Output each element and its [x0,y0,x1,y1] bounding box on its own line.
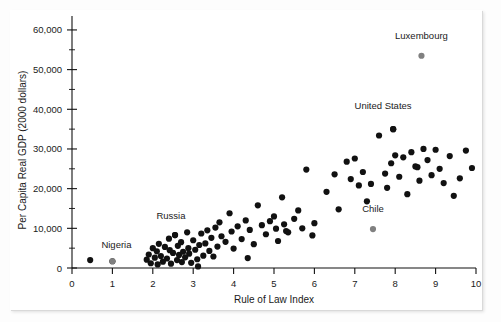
data-point [437,166,443,172]
data-point [457,175,463,181]
data-point [164,255,170,261]
data-point [243,217,249,223]
data-point [228,228,234,234]
data-point [154,248,160,254]
data-point [202,240,208,246]
y-tick-label: 20,000 [33,183,62,194]
annotated-data-point [390,126,396,132]
annotated-data-point [418,53,424,59]
y-axis-title: Per Capita Real GDP (2000 dollars) [17,71,28,230]
annotated-data-point [370,226,376,232]
data-point [204,227,210,233]
point-label-luxembourg: Luxembourg [395,30,448,41]
x-tick-label: 0 [69,278,74,289]
data-point [168,261,174,267]
data-point [158,253,164,259]
data-point [166,236,172,242]
data-point [348,176,354,182]
y-tick-label: 0 [57,263,62,274]
data-point [416,178,422,184]
data-point [344,159,350,165]
data-point [295,207,301,213]
point-label-chile: Chile [362,203,384,214]
data-point [323,189,329,195]
data-point [190,237,196,243]
data-point [420,146,426,152]
x-tick-label: 1 [110,278,115,289]
point-label-nigeria: Nigeria [101,239,132,250]
data-point [178,239,184,245]
data-point [146,251,152,257]
data-point [152,255,158,261]
data-point [388,160,394,166]
data-point [194,256,200,262]
data-point [271,213,277,219]
scatter-plot: 012345678910010,00020,00030,00040,00050,… [0,0,501,322]
data-point [170,250,176,256]
x-tick-label: 5 [271,278,276,289]
data-point [311,220,317,226]
data-point [356,182,362,188]
data-point [196,242,202,248]
data-point [155,261,161,267]
y-tick-label: 30,000 [33,143,62,154]
data-point [200,253,206,259]
data-point [212,224,218,230]
data-point [185,245,191,251]
data-point [360,169,366,175]
data-point [291,216,297,222]
data-point [469,165,475,171]
data-point [433,147,439,153]
data-point [156,241,162,247]
data-point [400,154,406,160]
data-point [267,218,273,224]
data-point [247,227,253,233]
data-point [245,255,251,261]
y-tick-label: 50,000 [33,64,62,75]
data-point [392,152,398,158]
x-tick-label: 7 [352,278,357,289]
annotated-data-point [172,232,178,238]
x-tick-label: 2 [150,278,155,289]
data-point [303,167,309,173]
data-point [281,221,287,227]
data-point [336,206,342,212]
data-point [463,147,469,153]
data-point [424,157,430,163]
annotated-data-point [109,258,115,264]
data-point [332,171,338,177]
data-point [222,239,228,245]
data-point [218,233,224,239]
point-label-russia: Russia [156,210,186,221]
data-point [408,149,414,155]
data-point [285,229,291,235]
data-point [447,153,453,159]
x-axis-title: Rule of Law Index [234,294,314,305]
y-tick-label: 60,000 [33,24,62,35]
data-point [273,226,279,232]
data-point [214,243,220,249]
data-point [414,164,420,170]
x-tick-label: 4 [231,278,236,289]
data-point [235,223,241,229]
data-point [299,225,305,231]
data-points-layer [87,126,475,269]
data-point [186,251,192,257]
x-tick-label: 8 [393,278,398,289]
data-point [451,193,457,199]
point-label-united-states: United States [355,100,412,111]
data-point [428,172,434,178]
data-point [263,231,269,237]
data-point [210,253,216,259]
data-point [206,248,212,254]
data-point [239,236,245,242]
data-point [188,260,194,266]
x-tick-label: 10 [471,278,482,289]
y-tick-label: 10,000 [33,223,62,234]
data-point [259,222,265,228]
data-point [231,245,237,251]
data-point [192,247,198,253]
y-tick-label: 40,000 [33,104,62,115]
data-point [382,170,388,176]
data-point [376,132,382,138]
